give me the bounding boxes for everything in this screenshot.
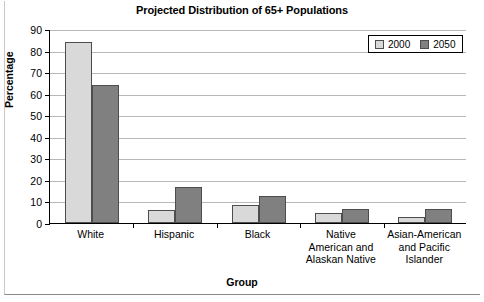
x-axis-category-label: Hispanic [132, 228, 215, 241]
legend-label: 2000 [388, 39, 410, 50]
legend-item-2050: 2050 [420, 39, 455, 50]
bar-2050-black [259, 196, 286, 223]
legend-label: 2050 [433, 39, 455, 50]
y-axis-label: 90 [14, 24, 42, 36]
y-axis-tick [45, 138, 50, 139]
y-axis-tick [45, 224, 50, 225]
x-axis-label-line: Asian-American [383, 228, 466, 241]
x-axis-label-line: and Pacific [383, 241, 466, 254]
gridline [50, 30, 466, 31]
y-axis-label: 10 [14, 196, 42, 208]
x-axis-label-line: Black [216, 228, 299, 241]
y-axis-label: 20 [14, 175, 42, 187]
y-axis-label: 30 [14, 153, 42, 165]
y-axis-tick [45, 52, 50, 53]
y-axis-tick [45, 202, 50, 203]
y-axis-label: 40 [14, 132, 42, 144]
y-axis-tick [45, 116, 50, 117]
plot-area [49, 30, 466, 224]
y-axis-label: 80 [14, 46, 42, 58]
y-axis-tick [45, 30, 50, 31]
x-axis-label-line: Hispanic [132, 228, 215, 241]
x-axis-category-label: Black [216, 228, 299, 241]
bar-2000-native [315, 213, 342, 223]
bar-2050-hispanic [175, 187, 202, 223]
y-axis-tick [45, 95, 50, 96]
y-axis-tick [45, 181, 50, 182]
x-axis-label-line: Islander [383, 253, 466, 266]
bar-2000-hispanic [148, 210, 175, 223]
legend-swatch-icon [420, 40, 429, 49]
x-axis-category-label: NativeAmerican andAlaskan Native [299, 228, 382, 266]
y-axis-label: 70 [14, 67, 42, 79]
x-axis-label-line: Alaskan Native [299, 253, 382, 266]
x-axis-category-label: White [49, 228, 132, 241]
bar-2000-black [232, 205, 259, 223]
legend-swatch-icon [375, 40, 384, 49]
bar-2050-native [342, 209, 369, 223]
x-axis-label-line: American and [299, 241, 382, 254]
y-axis-tick [45, 159, 50, 160]
x-axis-title: Group [0, 276, 484, 288]
chart-title: Projected Distribution of 65+ Population… [0, 4, 484, 16]
bar-2000-asian-american [398, 217, 425, 223]
x-axis-label-line: White [49, 228, 132, 241]
bar-2050-white [92, 85, 119, 223]
y-axis-label: 50 [14, 110, 42, 122]
y-axis-label: 0 [14, 218, 42, 230]
legend-item-2000: 2000 [375, 39, 410, 50]
bar-2050-asian-american [425, 209, 452, 223]
gridline [50, 73, 466, 74]
y-axis-tick [45, 73, 50, 74]
bar-2000-white [65, 42, 92, 223]
x-axis-category-label: Asian-Americanand PacificIslander [383, 228, 466, 266]
y-axis-label: 60 [14, 89, 42, 101]
x-axis-label-line: Native [299, 228, 382, 241]
chart-figure: Projected Distribution of 65+ Population… [0, 0, 484, 302]
chart-legend: 20002050 [368, 35, 463, 53]
